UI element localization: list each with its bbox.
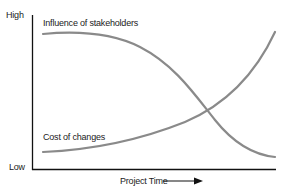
influence-label: Influence of stakeholders [43, 18, 138, 28]
x-axis-label: Project Time [120, 176, 168, 186]
y-low-label: Low [9, 162, 25, 172]
x-arrow-head-icon [194, 178, 203, 185]
chart-canvas [0, 0, 294, 196]
cost-label: Cost of changes [43, 132, 105, 142]
y-high-label: High [6, 10, 24, 20]
